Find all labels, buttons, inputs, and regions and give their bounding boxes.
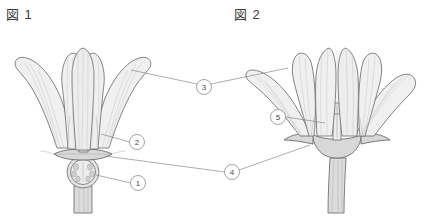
figure-1-petal-left [15,57,70,148]
figure-1-sepal-tip-left [40,151,54,154]
callout-4-label: 4 [230,168,235,177]
figure-1-sepal-tip-right [112,151,126,154]
callout-5-label: 5 [276,113,281,122]
callout-4[interactable]: 4 [225,165,240,180]
callout-5[interactable]: 5 [271,110,286,125]
callout-3[interactable]: 3 [197,80,212,95]
figure-2-petals [246,48,416,136]
leader-4-left [105,156,225,172]
diagram-canvas: 1 2 3 4 5 [0,0,423,216]
figure-2-petal-inner-right [338,48,358,136]
figure-1-petals [15,48,151,150]
figure-1-illustration [15,48,151,213]
leader-4-right [239,145,310,170]
callout-2[interactable]: 2 [130,135,145,150]
figure-2-petal-inner-left [316,48,336,136]
flower-diagram-figure: 図 1 図 2 [0,0,423,216]
figure-1-pedicel [74,186,92,213]
leader-1 [96,175,131,183]
figure-2-illustration [246,48,416,213]
figure-1-petal-right [96,57,151,148]
callout-1[interactable]: 1 [131,176,146,191]
callout-3-label: 3 [202,83,207,92]
figure-2-pedicel [328,158,346,213]
callout-1-label: 1 [136,179,141,188]
callout-2-label: 2 [135,138,140,147]
